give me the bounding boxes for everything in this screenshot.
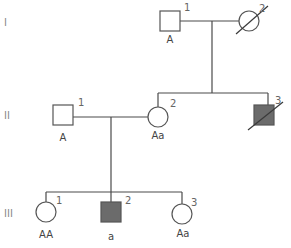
generation-label-III: III <box>4 208 13 219</box>
individual-number: 1 <box>184 2 190 13</box>
individual-number: 3 <box>191 197 197 208</box>
individual-III-3-female <box>172 204 192 224</box>
generation-label-I: I <box>4 17 7 28</box>
genotype-label: A <box>167 34 174 45</box>
genotype-label: AA <box>39 229 53 240</box>
pedigree-chart: I II III 1 A 2 1 A 2 Aa 3 1 AA 2 a 3 Aa <box>0 0 291 248</box>
individual-number: 2 <box>125 195 131 206</box>
genotype-label: Aa <box>152 130 165 141</box>
individual-III-1-female <box>36 202 56 222</box>
individual-II-3-affected-male <box>254 105 274 125</box>
individual-number: 3 <box>275 95 281 106</box>
individual-number: 1 <box>56 195 62 206</box>
genotype-label: a <box>108 231 114 242</box>
individual-I-1-male <box>160 11 180 31</box>
generation-label-II: II <box>4 110 10 121</box>
individual-III-2-affected-male <box>101 202 121 222</box>
individual-II-2-female <box>148 107 168 127</box>
individual-number: 2 <box>170 98 176 109</box>
genotype-label: A <box>60 132 67 143</box>
individual-number: 1 <box>78 97 84 108</box>
individual-number: 2 <box>259 3 265 14</box>
genotype-label: Aa <box>177 228 190 239</box>
individual-II-1-male <box>53 105 73 125</box>
